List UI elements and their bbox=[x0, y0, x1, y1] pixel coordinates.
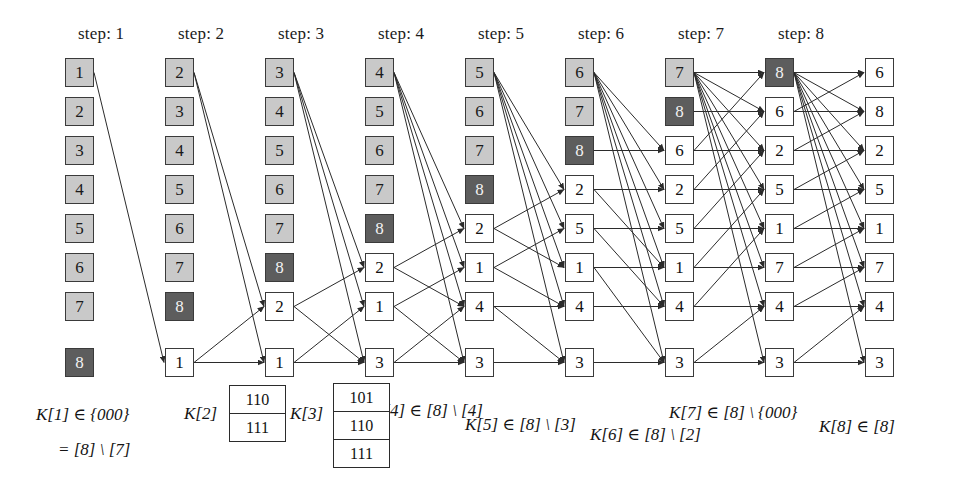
node-c0-r7: 8 bbox=[65, 348, 94, 377]
edge-51 bbox=[694, 73, 764, 151]
node-c4-r4: 2 bbox=[465, 214, 494, 243]
node-c5-r4: 5 bbox=[565, 214, 594, 243]
node-c5-r5: 1 bbox=[565, 253, 594, 282]
node-c3-r2: 6 bbox=[365, 136, 394, 165]
node-c0-r6: 7 bbox=[65, 292, 94, 321]
edge-54 bbox=[694, 73, 764, 268]
node-c7-r4: 1 bbox=[765, 214, 794, 243]
node-c4-r2: 7 bbox=[465, 136, 494, 165]
node-c3-r5: 2 bbox=[365, 253, 394, 282]
edge-53 bbox=[694, 73, 764, 229]
edge-14 bbox=[394, 73, 464, 307]
node-c2-r0: 3 bbox=[265, 58, 294, 87]
edge-7 bbox=[294, 73, 364, 363]
step-label-7: step: 7 bbox=[678, 24, 724, 44]
node-c7-r5: 7 bbox=[765, 253, 794, 282]
edge-13 bbox=[394, 73, 464, 268]
node-c1-r6: 8 bbox=[165, 292, 194, 321]
node-c6-r5: 1 bbox=[665, 253, 694, 282]
node-c7-r2: 2 bbox=[765, 136, 794, 165]
node-c4-r5: 1 bbox=[465, 253, 494, 282]
edge-87 bbox=[794, 151, 864, 190]
node-c7-r7: 3 bbox=[765, 348, 794, 377]
node-c8-r0: 6 bbox=[865, 58, 894, 87]
node-c7-r3: 5 bbox=[765, 175, 794, 204]
node-c8-r3: 5 bbox=[865, 175, 894, 204]
edge-46 bbox=[594, 190, 664, 268]
node-c5-r7: 3 bbox=[565, 348, 594, 377]
edge-28 bbox=[494, 229, 564, 268]
keybox-k3-row-0: 101 bbox=[334, 384, 389, 412]
edge-77 bbox=[794, 73, 864, 363]
edge-16 bbox=[394, 229, 464, 268]
node-c0-r2: 3 bbox=[65, 136, 94, 165]
edge-89 bbox=[794, 229, 864, 268]
step-label-5: step: 5 bbox=[478, 24, 524, 44]
formula-k2: K[2] bbox=[184, 404, 217, 424]
edge-90 bbox=[794, 268, 864, 307]
edge-1 bbox=[194, 73, 264, 307]
node-c3-r7: 3 bbox=[365, 348, 394, 377]
edge-18 bbox=[394, 268, 464, 307]
node-c2-r3: 6 bbox=[265, 175, 294, 204]
step-label-4: step: 4 bbox=[378, 24, 424, 44]
edge-8 bbox=[294, 268, 364, 307]
node-c1-r1: 3 bbox=[165, 97, 194, 126]
edge-65 bbox=[694, 112, 764, 190]
node-c6-r3: 2 bbox=[665, 175, 694, 204]
diagram-canvas: step: 1step: 2step: 3step: 4step: 5step:… bbox=[0, 0, 966, 501]
step-label-2: step: 2 bbox=[178, 24, 224, 44]
formula-k1: K[1] ∈ {000} bbox=[36, 404, 129, 425]
edge-10 bbox=[294, 307, 364, 363]
step-label-6: step: 6 bbox=[578, 24, 624, 44]
node-c7-r6: 4 bbox=[765, 292, 794, 321]
formula-k8: K[8] ∈ [8] bbox=[819, 416, 895, 437]
edge-86 bbox=[794, 112, 864, 151]
formula-k5: K[5] ∈ [8] \ [3] bbox=[465, 414, 576, 435]
edge-19 bbox=[394, 307, 464, 363]
edge-26 bbox=[494, 73, 564, 363]
node-c2-r5: 8 bbox=[265, 253, 294, 282]
edge-55 bbox=[694, 73, 764, 307]
node-c3-r6: 1 bbox=[365, 292, 394, 321]
node-c3-r4: 8 bbox=[365, 214, 394, 243]
node-c6-r6: 4 bbox=[665, 292, 694, 321]
edge-2 bbox=[194, 73, 264, 363]
edge-38 bbox=[594, 73, 664, 307]
node-c0-r4: 5 bbox=[65, 214, 94, 243]
node-c4-r0: 5 bbox=[465, 58, 494, 87]
node-c8-r5: 7 bbox=[865, 253, 894, 282]
node-c6-r1: 8 bbox=[665, 97, 694, 126]
node-c3-r3: 7 bbox=[365, 175, 394, 204]
edge-4 bbox=[194, 307, 264, 363]
edge-47 bbox=[594, 229, 664, 307]
edge-35 bbox=[594, 73, 664, 190]
edge-78 bbox=[794, 73, 864, 112]
node-c4-r3: 8 bbox=[465, 175, 494, 204]
edge-52 bbox=[694, 73, 764, 190]
edge-72 bbox=[794, 73, 864, 151]
edge-5 bbox=[294, 73, 364, 268]
node-c7-r0: 8 bbox=[765, 58, 794, 87]
edge-68 bbox=[694, 229, 764, 307]
edge-73 bbox=[794, 73, 864, 190]
node-c0-r3: 4 bbox=[65, 175, 94, 204]
node-c5-r3: 2 bbox=[565, 175, 594, 204]
node-c3-r1: 5 bbox=[365, 97, 394, 126]
node-c8-r7: 3 bbox=[865, 348, 894, 377]
node-c6-r7: 3 bbox=[665, 348, 694, 377]
node-c6-r0: 7 bbox=[665, 58, 694, 87]
edge-50 bbox=[694, 73, 764, 112]
node-c6-r4: 5 bbox=[665, 214, 694, 243]
edge-37 bbox=[594, 73, 664, 268]
edge-56 bbox=[694, 73, 764, 363]
node-c2-r4: 7 bbox=[265, 214, 294, 243]
node-c8-r4: 1 bbox=[865, 214, 894, 243]
edge-22 bbox=[494, 73, 564, 190]
edge-25 bbox=[494, 73, 564, 307]
formula-k1-cont: = [8] \ [7] bbox=[58, 440, 130, 460]
formula-k3: K[3] bbox=[290, 404, 323, 424]
edge-12 bbox=[394, 73, 464, 229]
edge-15 bbox=[394, 73, 464, 363]
edge-48 bbox=[594, 268, 664, 363]
